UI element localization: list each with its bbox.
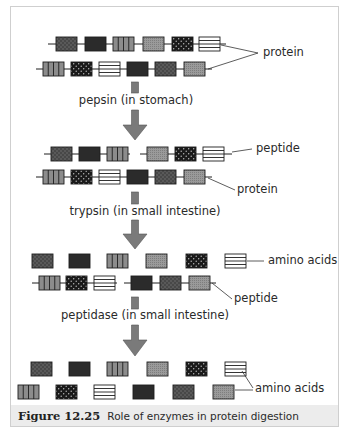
block-light-stipple (147, 147, 168, 161)
down-arrow-icon (123, 192, 147, 249)
label-protein-2: protein (237, 182, 278, 196)
block-black-white-dots (175, 147, 196, 161)
label-amino-acids-4: amino acids (255, 381, 324, 395)
block-vertical-stripes (43, 170, 64, 184)
block-horizontal-stripes (94, 276, 115, 290)
label-amino-acids-3: amino acids (268, 253, 337, 267)
step-label-pepsin: pepsin (in stomach) (79, 93, 193, 107)
block-vertical-stripes (107, 362, 128, 376)
block-vertical-stripes (43, 62, 64, 76)
block-light-stipple (143, 37, 164, 51)
figure-caption-text: Role of enzymes in protein digestion (107, 410, 299, 422)
peptide-chain-row (36, 62, 212, 76)
block-solid-dark (127, 170, 148, 184)
label-peptide-2: peptide (256, 141, 300, 155)
block-dark-dotted (31, 362, 52, 376)
block-light-stipple (184, 170, 205, 184)
block-dark-dotted (173, 385, 194, 399)
block-horizontal-stripes (225, 254, 246, 268)
figure-caption: Figure 12.25 Role of enzymes in protein … (11, 405, 338, 426)
block-light-stipple (147, 362, 168, 376)
down-arrow-icon (123, 297, 147, 356)
block-black-white-dots (71, 62, 92, 76)
down-arrow-icon (123, 82, 147, 140)
block-dark-dotted (155, 62, 176, 76)
block-black-white-dots (71, 170, 92, 184)
block-horizontal-stripes (199, 37, 220, 51)
block-vertical-stripes (107, 254, 128, 268)
block-solid-dark (79, 147, 100, 161)
step-label-trypsin: trypsin (in small intestine) (70, 204, 221, 218)
block-black-white-dots (186, 362, 207, 376)
block-solid-dark (69, 254, 90, 268)
block-light-stipple (189, 276, 210, 290)
block-solid-dark (133, 385, 154, 399)
block-horizontal-stripes (99, 62, 120, 76)
block-horizontal-stripes (203, 147, 224, 161)
peptide-chain-row (48, 37, 226, 51)
block-dark-dotted (160, 276, 181, 290)
peptide-chain-row (32, 276, 216, 290)
peptide-chain-row (18, 385, 234, 399)
peptide-chain-row (44, 147, 232, 161)
block-solid-dark (85, 37, 106, 51)
block-black-white-dots (66, 276, 87, 290)
block-light-stipple (146, 254, 167, 268)
block-horizontal-stripes (99, 170, 120, 184)
peptide-chain-row (31, 362, 246, 376)
protein-digestion-diagram: protein peptide protein amino acids pept… (0, 0, 346, 436)
block-dark-dotted (32, 254, 53, 268)
block-dark-dotted (51, 147, 72, 161)
block-vertical-stripes (113, 37, 134, 51)
block-solid-dark (131, 276, 152, 290)
label-peptide-3: peptide (234, 291, 278, 305)
block-black-white-dots (186, 254, 207, 268)
figure-number: Figure 12.25 (18, 409, 100, 423)
block-solid-dark (127, 62, 148, 76)
step-label-peptidase: peptidase (in small intestine) (61, 308, 229, 322)
block-light-stipple (213, 385, 234, 399)
block-black-white-dots (56, 385, 77, 399)
label-protein-1: protein (263, 45, 304, 59)
block-vertical-stripes (107, 147, 128, 161)
block-horizontal-stripes (94, 385, 115, 399)
block-light-stipple (184, 62, 205, 76)
block-solid-dark (69, 362, 90, 376)
block-dark-dotted (56, 37, 77, 51)
peptide-chain-row (36, 170, 212, 184)
block-dark-dotted (155, 170, 176, 184)
block-vertical-stripes (39, 276, 60, 290)
block-vertical-stripes (18, 385, 39, 399)
block-horizontal-stripes (225, 362, 246, 376)
peptide-chain-row (32, 254, 246, 268)
block-black-white-dots (172, 37, 193, 51)
